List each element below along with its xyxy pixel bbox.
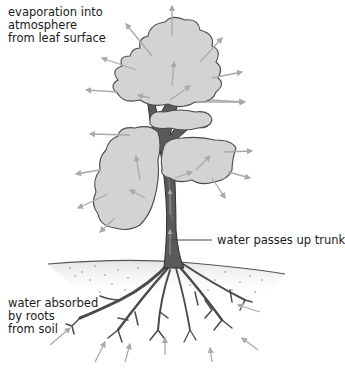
evaporation-label: evaporation into atmosphere from leaf su… <box>8 6 106 45</box>
trunk-label: water passes up trunk <box>217 234 345 247</box>
trunk-label-text: water passes up trunk <box>217 234 345 247</box>
roots-label-line-3: from soil <box>8 323 98 336</box>
evaporation-label-line-3: from leaf surface <box>8 32 106 45</box>
roots-label: water absorbed by roots from soil <box>8 297 98 336</box>
tree-canopy <box>93 17 236 229</box>
